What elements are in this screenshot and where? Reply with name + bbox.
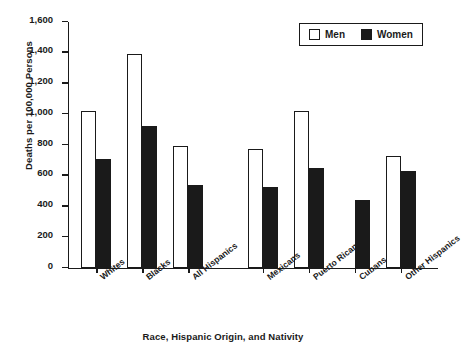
x-axis-tick [263, 268, 264, 273]
bar-men-blacks [127, 54, 142, 268]
bar-women-all-hispanics [188, 185, 203, 268]
x-axis-tick [401, 268, 402, 273]
legend-swatch-men [309, 29, 320, 40]
y-axis-tick-label: 600 [37, 167, 53, 178]
legend-label: Women [377, 29, 413, 40]
y-axis-tick-label: 400 [37, 198, 53, 209]
bar-women-puerto-ricans [309, 168, 324, 268]
x-axis-tick [355, 268, 356, 273]
legend-label: Men [325, 29, 345, 40]
y-axis-tick-label: 200 [37, 229, 53, 240]
bar-women-whites [96, 159, 111, 268]
x-axis-line [68, 268, 438, 269]
x-axis-title: Race, Hispanic Origin, and Nativity [0, 331, 446, 342]
y-axis-tick-label: 1,000 [29, 106, 53, 117]
x-axis-tick [142, 268, 143, 273]
bar-women-mexicans [263, 187, 278, 268]
x-axis-tick [96, 268, 97, 273]
bar-men-whites [81, 111, 96, 268]
x-axis-tick [188, 268, 189, 273]
bar-women-blacks [142, 126, 157, 268]
bar-men-puerto-ricans [294, 111, 309, 268]
legend-item-women: Women [361, 29, 413, 40]
legend-swatch-women [361, 29, 372, 40]
chart-legend: MenWomen [299, 23, 423, 46]
bar-men-all-hispanics [173, 146, 188, 268]
plot-area: 02004006008001,0001,2001,4001,600 Whites… [68, 22, 438, 268]
y-axis-tick-label: 800 [37, 137, 53, 148]
y-axis-tick-label: 1,400 [29, 44, 53, 55]
legend-item-men: Men [309, 29, 345, 40]
x-axis-tick [309, 268, 310, 273]
bars-layer [68, 22, 438, 268]
y-axis-tick-label: 0 [48, 260, 53, 271]
bar-women-other-hispanics [401, 171, 416, 268]
bar-men-mexicans [248, 149, 263, 268]
bar-men-other-hispanics [386, 156, 401, 268]
y-axis-tick-label: 1,200 [29, 75, 53, 86]
bar-women-cubans [355, 200, 370, 268]
y-axis-tick-label: 1,600 [29, 14, 53, 25]
